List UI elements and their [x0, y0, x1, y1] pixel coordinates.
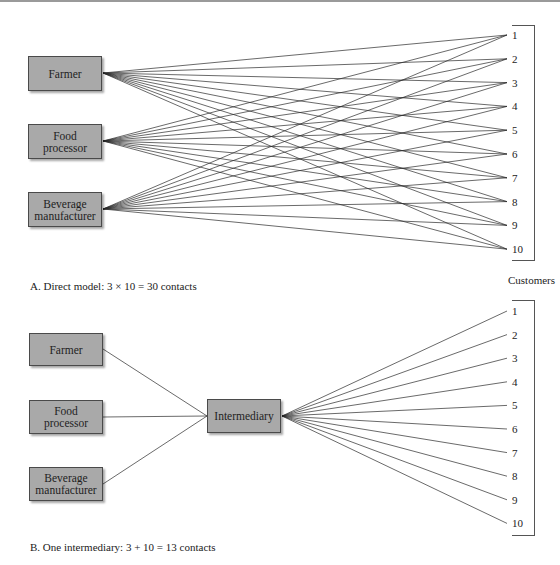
producer-label-line1: Food — [54, 405, 78, 417]
caption-intermediary-model: B. One intermediary: 3 + 10 = 13 contact… — [30, 541, 216, 553]
customers-label: Customers — [508, 274, 555, 286]
producer-label-line2: manufacturer — [34, 210, 95, 222]
intermediary-box: Intermediary — [207, 399, 281, 433]
producer-food-processor-box: Food processor — [28, 124, 102, 159]
producer-farmer-box: Farmer — [29, 333, 103, 366]
intermediary-label: Intermediary — [214, 410, 273, 422]
intermediary-model-lines — [103, 311, 507, 523]
producer-label: Farmer — [49, 344, 82, 356]
direct-model-lines — [103, 35, 507, 249]
producer-beverage-manufacturer-box: Beverage manufacturer — [28, 192, 102, 227]
producer-label-line2: manufacturer — [35, 484, 96, 496]
producer-label-line2: processor — [43, 142, 87, 154]
producer-label-line1: Food — [53, 130, 77, 142]
customers-bracket-b — [512, 300, 535, 536]
producer-farmer-box: Farmer — [28, 56, 102, 91]
producer-label-line1: Beverage — [43, 198, 86, 210]
producer-label-line1: Beverage — [44, 472, 87, 484]
caption-direct-model: A. Direct model: 3 × 10 = 30 contacts — [30, 280, 197, 292]
producer-beverage-manufacturer-box: Beverage manufacturer — [29, 467, 103, 501]
producer-label: Farmer — [48, 68, 81, 80]
customers-bracket-a — [512, 25, 535, 261]
producer-label-line2: processor — [44, 417, 88, 429]
producer-food-processor-box: Food processor — [29, 400, 103, 434]
